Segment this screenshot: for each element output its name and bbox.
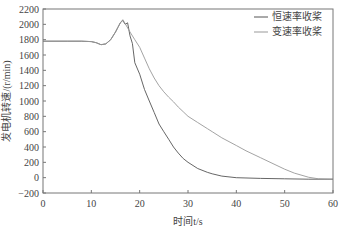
x-tick-label: 40 xyxy=(231,198,241,209)
y-tick-label: 1600 xyxy=(19,50,39,61)
y-tick-label: 1200 xyxy=(19,80,39,91)
y-tick-label: 800 xyxy=(24,111,39,122)
legend-label-constant: 恒速率收桨 xyxy=(272,10,322,22)
x-tick-label: 20 xyxy=(135,198,145,209)
chart: −200020040060080010001200140016001800200… xyxy=(0,0,339,232)
y-tick-label: 2000 xyxy=(19,19,39,30)
y-tick-label: 1400 xyxy=(19,65,39,76)
y-tick-label: 1800 xyxy=(19,34,39,45)
y-tick-label: 400 xyxy=(24,142,39,153)
x-tick-label: 10 xyxy=(86,198,96,209)
legend: 恒速率收桨 变速率收桨 xyxy=(254,10,322,37)
y-tick-label: 600 xyxy=(24,126,39,137)
x-axis-title: 时间t/s xyxy=(173,215,203,227)
x-tick-label: 50 xyxy=(280,198,290,209)
x-tick-label: 0 xyxy=(41,198,46,209)
legend-label-variable: 变速率收桨 xyxy=(272,25,322,37)
y-tick-label: 2200 xyxy=(19,4,39,15)
y-tick-label: 1000 xyxy=(19,96,39,107)
y-tick-label: −200 xyxy=(18,188,39,199)
y-tick-label: 0 xyxy=(34,172,39,183)
x-tick-label: 30 xyxy=(183,198,193,209)
series-lines xyxy=(43,20,333,180)
series-constant-rate-line xyxy=(43,21,333,180)
y-axis-ticks: −200020040060080010001200140016001800200… xyxy=(18,4,46,199)
x-tick-label: 60 xyxy=(328,198,338,209)
y-tick-label: 200 xyxy=(24,157,39,168)
y-axis-title: 发电机转速/(r/min) xyxy=(0,60,13,141)
series-variable-rate-line xyxy=(43,20,333,180)
